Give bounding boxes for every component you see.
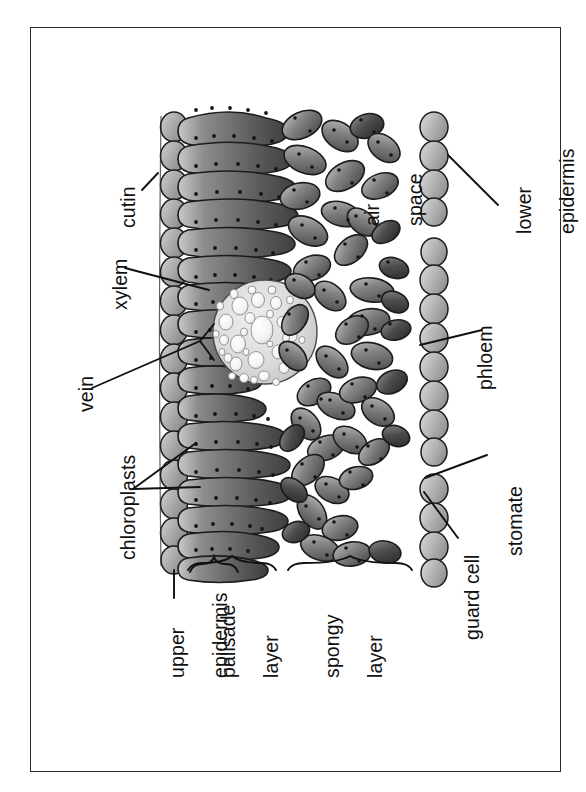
leader-cutin xyxy=(142,173,158,190)
label-lower-epidermis-line2: epidermis xyxy=(556,148,578,233)
label-upper-epidermis-line1: upper xyxy=(166,628,188,678)
label-stomate: stomate xyxy=(505,486,526,556)
label-spongy-line1: spongy xyxy=(321,614,343,677)
label-palisade-line2: layer xyxy=(260,635,282,678)
label-spongy-line2: layer xyxy=(364,635,386,678)
label-xylem: xylem xyxy=(110,259,131,310)
label-palisade-line1: palisade xyxy=(217,604,239,677)
label-lower-epidermis-line1: lower xyxy=(513,187,535,234)
label-spongy-layer: spongy layer xyxy=(300,614,409,700)
label-air-space-line2: space xyxy=(404,173,426,226)
label-air-space-line1: air xyxy=(361,204,383,226)
label-palisade-layer: palisade layer xyxy=(196,604,305,700)
leader-lower-epidermis xyxy=(448,155,498,205)
figure-page: cutin xylem vein chloroplasts upper epid… xyxy=(0,0,586,792)
cutin-layer xyxy=(160,116,162,566)
label-phloem: phloem xyxy=(475,325,496,390)
label-chloroplasts: chloroplasts xyxy=(118,455,139,560)
label-vein: vein xyxy=(76,376,97,412)
label-air-space: air space xyxy=(340,173,449,248)
label-lower-epidermis: lower epidermis xyxy=(492,148,586,256)
label-guard-cell: guard cell xyxy=(462,554,483,640)
label-cutin: cutin xyxy=(118,186,139,228)
